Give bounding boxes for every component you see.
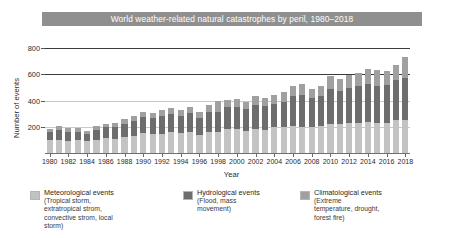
- bar-segment-2001-2: [243, 102, 249, 109]
- legend: Meteorological events (Tropical storm, e…: [0, 190, 463, 234]
- bar-segment-2001-0: [243, 131, 249, 153]
- chart-screenshot: World weather-related natural catastroph…: [0, 0, 463, 238]
- bar-segment-1995-1: [187, 113, 193, 132]
- bar-segment-1986-0: [103, 138, 109, 153]
- bar-1990: [140, 112, 146, 153]
- x-tick-2018: [405, 154, 406, 157]
- x-axis-line: [45, 153, 410, 154]
- bar-1983: [75, 128, 81, 153]
- bar-segment-2009-2: [318, 86, 324, 96]
- bar-segment-1986-1: [103, 127, 109, 138]
- x-tick-1984: [87, 154, 88, 157]
- bar-segment-2000-1: [234, 107, 240, 129]
- legend-sub-meteorological-1: (Tropical storm, extratropical strom,: [44, 197, 114, 214]
- x-tick-2000: [237, 154, 238, 157]
- x-tick-2006: [293, 154, 294, 157]
- bar-segment-1985-1: [93, 130, 99, 140]
- bar-segment-2008-2: [309, 89, 315, 99]
- x-tick-1988: [125, 154, 126, 157]
- bar-2018: [402, 57, 408, 153]
- bar-1993: [168, 108, 174, 153]
- bar-segment-2012-2: [346, 75, 352, 88]
- x-tick-2008: [312, 154, 313, 157]
- y-tick-800: [41, 48, 45, 49]
- bar-segment-2008-1: [309, 98, 315, 127]
- legend-label-meteorological: Meteorological events: [44, 188, 114, 197]
- legend-swatch-meteorological-icon: [30, 191, 40, 200]
- bar-segment-2017-2: [393, 65, 399, 80]
- bar-segment-2014-0: [365, 122, 371, 153]
- bar-segment-1982-2: [65, 128, 71, 131]
- bar-1991: [150, 113, 156, 153]
- legend-sub-meteorological-2: convective strom, local storm): [44, 214, 114, 231]
- bar-segment-1980-0: [47, 140, 53, 153]
- bar-segment-1990-0: [140, 133, 146, 153]
- bar-segment-1981-1: [56, 130, 62, 140]
- bar-segment-1987-1: [112, 127, 118, 139]
- legend-sub-hydrological-1: (Flood, mass movement): [197, 197, 260, 214]
- bar-1986: [103, 124, 109, 153]
- bar-2011: [337, 79, 343, 153]
- bar-1981: [56, 126, 62, 153]
- bar-1998: [215, 101, 221, 153]
- bar-2016: [384, 71, 390, 153]
- bar-2001: [243, 102, 249, 153]
- bar-segment-1993-0: [168, 132, 174, 153]
- bar-segment-2008-0: [309, 127, 315, 153]
- bar-2009: [318, 86, 324, 153]
- bar-segment-2004-2: [271, 95, 277, 104]
- bar-segment-2005-0: [281, 127, 287, 153]
- bar-segment-2011-2: [337, 79, 343, 91]
- bar-1987: [112, 123, 118, 153]
- bar-2017: [393, 65, 399, 153]
- bar-segment-1992-2: [159, 110, 165, 116]
- x-tick-1990: [143, 154, 144, 157]
- x-tick-1994: [181, 154, 182, 157]
- bar-1985: [93, 126, 99, 153]
- bar-1994: [178, 110, 184, 153]
- bar-2000: [234, 99, 240, 153]
- bar-1984: [84, 131, 90, 153]
- bar-segment-1993-1: [168, 114, 174, 132]
- bar-segment-1998-1: [215, 112, 221, 132]
- bar-segment-1994-2: [178, 110, 184, 116]
- bar-2003: [262, 98, 268, 153]
- bar-1988: [121, 119, 127, 153]
- bar-segment-1999-0: [224, 129, 230, 153]
- bar-segment-2005-1: [281, 102, 287, 127]
- bar-2012: [346, 75, 352, 153]
- bar-segment-2006-2: [290, 86, 296, 96]
- bar-segment-1996-0: [196, 135, 202, 153]
- bar-segment-2015-1: [374, 86, 380, 122]
- bar-segment-2014-1: [365, 84, 371, 122]
- bar-1995: [187, 107, 193, 153]
- y-tick-400: [41, 101, 45, 102]
- bar-segment-1999-1: [224, 107, 230, 129]
- bar-segment-1989-2: [131, 116, 137, 121]
- bar-segment-1981-2: [56, 126, 62, 130]
- bar-2002: [252, 96, 258, 153]
- bar-segment-2006-0: [290, 126, 296, 153]
- bar-segment-2013-1: [355, 86, 361, 122]
- bar-segment-1994-1: [178, 116, 184, 133]
- x-tick-1998: [218, 154, 219, 157]
- bar-segment-1981-0: [56, 140, 62, 153]
- bar-segment-2004-0: [271, 127, 277, 153]
- bar-segment-2001-1: [243, 109, 249, 130]
- bar-segment-1986-2: [103, 124, 109, 128]
- bar-segment-1997-0: [206, 132, 212, 153]
- bar-segment-1984-2: [84, 131, 90, 134]
- bar-segment-1988-0: [121, 137, 127, 153]
- bar-segment-2000-0: [234, 129, 240, 153]
- bar-segment-2004-1: [271, 104, 277, 127]
- bar-segment-2012-0: [346, 123, 352, 153]
- bar-segment-1988-2: [121, 119, 127, 124]
- bar-segment-1999-2: [224, 100, 230, 107]
- bar-segment-2018-2: [402, 57, 408, 78]
- bar-segment-2015-0: [374, 123, 380, 153]
- chart-title-banner: World weather-related natural catastroph…: [42, 12, 422, 26]
- bar-segment-1995-2: [187, 107, 193, 113]
- bar-segment-1985-2: [93, 126, 99, 130]
- bar-segment-1980-1: [47, 132, 53, 141]
- y-tick-label-800: 800: [14, 44, 40, 53]
